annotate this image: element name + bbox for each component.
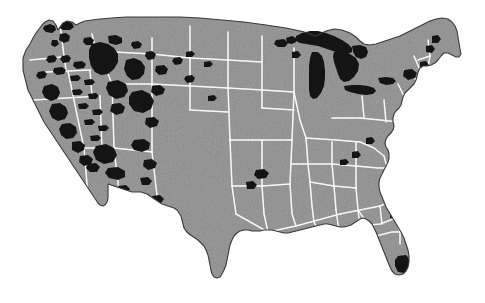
map-figure bbox=[0, 0, 485, 303]
halftone-texture bbox=[0, 0, 485, 303]
united-states-map bbox=[0, 0, 485, 303]
